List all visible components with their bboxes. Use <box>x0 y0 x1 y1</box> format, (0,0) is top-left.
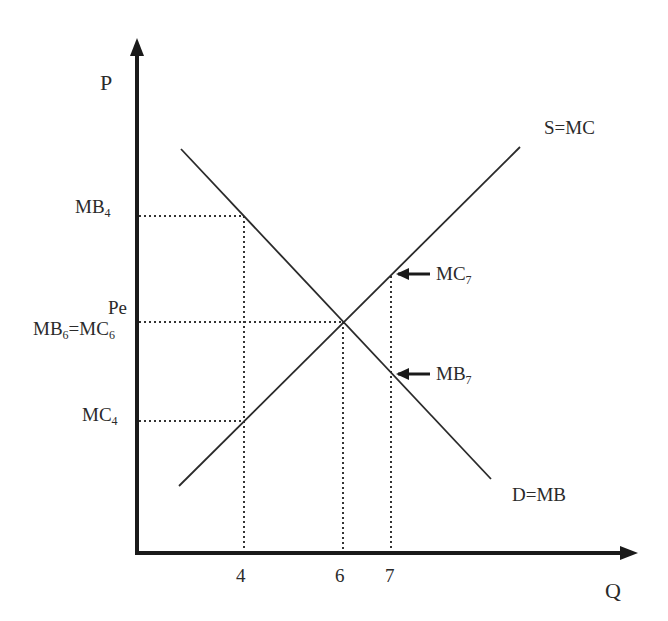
x-tick-7: 7 <box>385 566 395 585</box>
label-mc4: MC4 <box>82 405 118 427</box>
supply-curve <box>179 147 520 486</box>
y-axis-label: P <box>100 72 112 94</box>
demand-curve-label: D=MB <box>512 485 566 504</box>
x-axis-arrow-icon <box>620 546 638 560</box>
x-tick-4: 4 <box>236 566 246 585</box>
x-tick-6: 6 <box>335 566 345 585</box>
label-mb7: MB7 <box>436 364 472 386</box>
demand-curve <box>181 149 491 479</box>
guide-lines <box>139 216 391 552</box>
label-mc7: MC7 <box>436 264 472 286</box>
mc7-arrow-icon <box>396 268 430 280</box>
label-pe: Pe <box>108 298 127 317</box>
label-mb4: MB4 <box>75 197 111 219</box>
y-axis-arrow-icon <box>130 38 144 56</box>
mb7-arrow-icon <box>396 368 430 380</box>
label-mb6-equals-mc6: MB6=MC6 <box>33 319 115 341</box>
supply-curve-label: S=MC <box>544 118 595 137</box>
x-axis-label: Q <box>605 580 621 602</box>
